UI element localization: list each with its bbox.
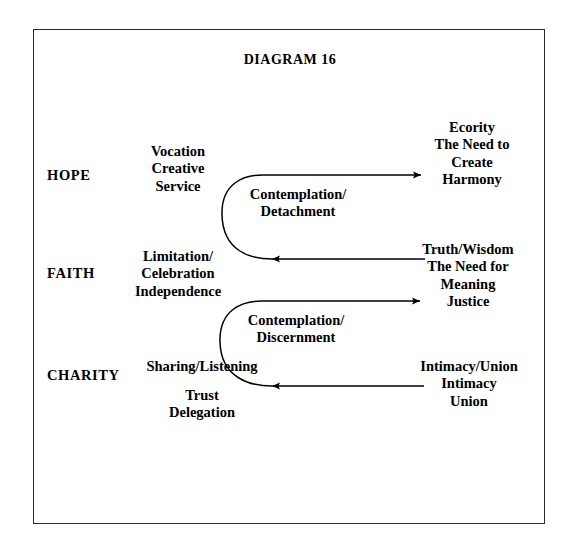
row-label-faith: FAITH [47, 265, 95, 282]
row-label-charity: CHARITY [47, 367, 120, 384]
faith-left-block: Limitation/ Celebration Independence [117, 248, 239, 300]
row-label-hope: HOPE [47, 167, 91, 184]
page-title: DIAGRAM 16 [0, 52, 580, 68]
charity-left-block: Sharing/Listening [128, 358, 276, 375]
curve-label-contemplation-detachment: Contemplation/ Detachment [234, 186, 362, 221]
charity-right-block: Intimacy/Union Intimacy Union [404, 358, 534, 410]
charity-left-block-lower: Trust Delegation [137, 387, 267, 422]
diagram-page: DIAGRAM 16 HOPE Vocation Creativ [0, 0, 580, 554]
hope-right-block: Ecority The Need to Create Harmony [411, 119, 533, 189]
curve-label-contemplation-discernment: Contemplation/ Discernment [231, 312, 361, 347]
hope-left-block: Vocation Creative Service [123, 143, 233, 195]
faith-right-block: Truth/Wisdom The Need for Meaning Justic… [404, 241, 532, 311]
